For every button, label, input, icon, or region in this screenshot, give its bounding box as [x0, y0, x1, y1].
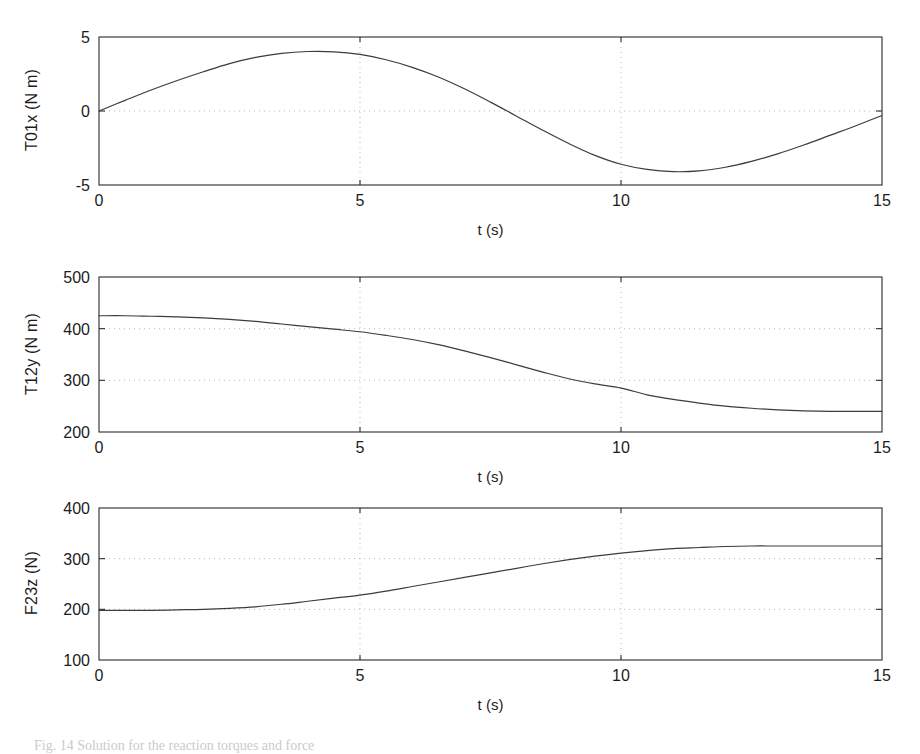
- chart-panel-t01x: 051015-505 T01x (N m) t (s): [0, 0, 920, 250]
- x-tick-label: 10: [612, 192, 630, 209]
- x-tick-label: 15: [873, 439, 891, 456]
- y-tick-label: 200: [63, 601, 90, 618]
- plot-area-f23z: 051015100200300400: [0, 500, 920, 752]
- x-tick-label: 5: [356, 192, 365, 209]
- y-tick-label: 500: [63, 269, 90, 286]
- figure-caption: Fig. 14 Solution for the reaction torque…: [34, 738, 314, 754]
- y-axis-label-f23z: F23z (N): [23, 523, 41, 643]
- y-tick-label: 5: [81, 29, 90, 46]
- y-axis-label-t12y: T12y (N m): [23, 294, 41, 414]
- y-tick-label: 300: [63, 551, 90, 568]
- x-axis-label-t01x: t (s): [99, 221, 882, 238]
- x-tick-label: 15: [873, 667, 891, 684]
- y-tick-label: 0: [81, 103, 90, 120]
- plot-area-t12y: 051015200300400500: [0, 250, 920, 500]
- data-series-line: [99, 546, 882, 610]
- plot-box: [99, 508, 882, 660]
- x-tick-label: 0: [95, 439, 104, 456]
- x-tick-label: 10: [612, 667, 630, 684]
- x-tick-label: 5: [356, 667, 365, 684]
- x-tick-label: 5: [356, 439, 365, 456]
- x-tick-label: 0: [95, 667, 104, 684]
- data-series-line: [99, 316, 882, 412]
- x-axis-label-f23z: t (s): [99, 696, 882, 713]
- plot-area-t01x: 051015-505: [0, 0, 920, 250]
- x-tick-label: 10: [612, 439, 630, 456]
- x-axis-label-t12y: t (s): [99, 468, 882, 485]
- y-axis-label-t01x: T01x (N m): [23, 50, 41, 170]
- y-tick-label: 400: [63, 500, 90, 517]
- y-tick-label: 200: [63, 424, 90, 441]
- y-tick-label: -5: [76, 177, 90, 194]
- chart-panel-f23z: 051015100200300400 F23z (N) t (s) Fig. 1…: [0, 500, 920, 752]
- y-tick-label: 400: [63, 321, 90, 338]
- y-tick-label: 300: [63, 372, 90, 389]
- x-tick-label: 15: [873, 192, 891, 209]
- data-series-line: [99, 51, 882, 171]
- x-tick-label: 0: [95, 192, 104, 209]
- chart-panel-t12y: 051015200300400500 T12y (N m) t (s): [0, 250, 920, 500]
- y-tick-label: 100: [63, 652, 90, 669]
